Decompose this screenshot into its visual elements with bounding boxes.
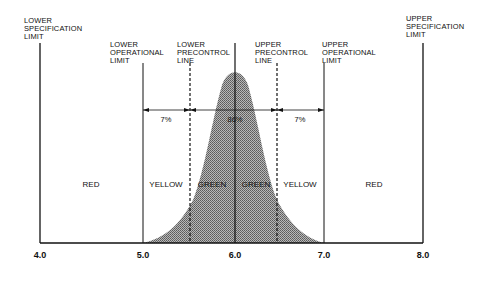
lower-operational-limit-label: LOWER OPERATIONAL LIMIT xyxy=(110,40,164,65)
tick-label: 4.0 xyxy=(34,250,47,260)
distribution-curve xyxy=(143,72,324,243)
svg-text:LINE: LINE xyxy=(255,56,272,65)
percent-left: 7% xyxy=(161,115,172,124)
region-yellow-right: YELLOW xyxy=(283,180,317,189)
tick-label: 6.0 xyxy=(229,250,242,260)
upper-precontrol-line-label: UPPER PRECONTROL LINE xyxy=(255,40,308,65)
upper-spec-limit-label: UPPER SPECIFICATION LIMIT xyxy=(406,14,464,39)
svg-text:LIMIT: LIMIT xyxy=(110,56,130,65)
tick-label: 7.0 xyxy=(318,250,331,260)
precontrol-diagram: 7% 86% 7% LOWER SPECIFICATION LIMIT LOWE… xyxy=(0,0,489,285)
region-green-right: GREEN xyxy=(242,180,271,189)
lower-precontrol-line-label: LOWER PRECONTROL LINE xyxy=(177,40,230,65)
upper-operational-limit-label: UPPER OPERATIONAL LIMIT xyxy=(322,40,376,65)
svg-text:LIMIT: LIMIT xyxy=(406,30,426,39)
lower-spec-limit-label: LOWER SPECIFICATION LIMIT xyxy=(24,16,82,41)
percent-middle: 86% xyxy=(227,115,242,124)
tick-label: 8.0 xyxy=(417,250,430,260)
percent-right: 7% xyxy=(295,115,306,124)
region-green-left: GREEN xyxy=(198,180,227,189)
svg-text:LIMIT: LIMIT xyxy=(322,56,342,65)
region-red-left: RED xyxy=(83,180,100,189)
svg-text:LIMIT: LIMIT xyxy=(24,32,44,41)
svg-text:LINE: LINE xyxy=(177,56,194,65)
region-red-right: RED xyxy=(366,180,383,189)
tick-label: 5.0 xyxy=(137,250,150,260)
region-yellow-left: YELLOW xyxy=(149,180,183,189)
